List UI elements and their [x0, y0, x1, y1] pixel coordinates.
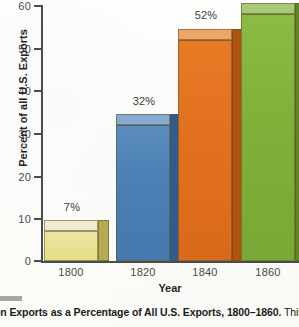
bar-1800-front-face — [44, 231, 98, 261]
y-tick-label-0: 0 — [5, 255, 31, 267]
caption-bold-text: on Exports as a Percentage of All U.S. E… — [0, 306, 281, 318]
bar-1820-front-face — [116, 125, 170, 261]
x-tick-label-1840: 1840 — [177, 266, 233, 278]
x-tick-label-1820: 1820 — [115, 266, 171, 278]
figure-caption: on Exports as a Percentage of All U.S. E… — [0, 290, 299, 327]
bar-1840-top-face — [178, 29, 232, 40]
y-tick-30 — [34, 133, 42, 135]
x-tick-label-1800: 1800 — [43, 266, 99, 278]
caption-normal-text: This gra — [281, 306, 299, 318]
y-tick-40 — [34, 90, 42, 92]
bar-1820 — [116, 114, 170, 261]
y-tick-60 — [34, 5, 42, 7]
y-tick-0 — [34, 260, 42, 262]
bar-1800-top-face — [44, 220, 98, 231]
caption-text-line: on Exports as a Percentage of All U.S. E… — [0, 306, 299, 318]
bar-1800 — [44, 220, 98, 261]
y-tick-label-10: 10 — [5, 213, 31, 225]
caption-rule-mark — [0, 296, 22, 301]
y-axis-title: Percent of all U.S. Exports — [17, 13, 29, 183]
y-tick-20 — [34, 176, 42, 178]
bar-1860-front-face — [241, 14, 295, 261]
bar-1840-front-face — [178, 40, 232, 261]
bar-1820-top-face — [116, 114, 170, 125]
bar-1860-top-face — [241, 3, 295, 14]
bar-1840 — [178, 29, 232, 261]
y-tick-50 — [34, 48, 42, 50]
x-tick-label-1860: 1860 — [240, 266, 296, 278]
bar-label-1840: 52% — [176, 9, 236, 21]
bar-label-1800: 7% — [42, 201, 102, 213]
chart-figure: 60 50 40 30 20 10 0 7% 32% — [0, 0, 299, 327]
bar-chart: 60 50 40 30 20 10 0 7% 32% — [0, 0, 299, 290]
bar-label-1820: 32% — [114, 95, 174, 107]
bar-1860-side-face — [295, 3, 299, 261]
y-tick-10 — [34, 218, 42, 220]
y-tick-label-60: 60 — [5, 0, 31, 12]
bar-1800-side-face — [98, 220, 109, 261]
bar-1860 — [241, 3, 295, 261]
x-axis-line — [41, 261, 299, 263]
